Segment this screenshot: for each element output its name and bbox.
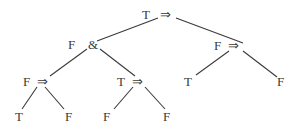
tree-node-leaf_rr: F bbox=[277, 74, 284, 89]
truth-value-label: F bbox=[277, 74, 284, 89]
edge-n_right-leaf_rr bbox=[243, 51, 277, 77]
truth-value-label: F bbox=[103, 109, 110, 124]
evaluation-tree-diagram: T⇒F&F⇒F⇒T⇒TFTFFF bbox=[0, 0, 300, 127]
implies-operator-label: ⇒ bbox=[37, 74, 48, 89]
tree-edges bbox=[22, 18, 277, 109]
edge-n_ll-leaf_1 bbox=[22, 87, 37, 109]
tree-node-leaf_4: F bbox=[163, 109, 170, 124]
and-operator-label: & bbox=[88, 37, 98, 52]
tree-node-leaf_3: F bbox=[103, 109, 110, 124]
edge-n_lr-leaf_4 bbox=[145, 87, 165, 109]
truth-value-label: F bbox=[23, 74, 30, 89]
edge-n_and-n_lr bbox=[100, 49, 135, 76]
tree-node-leaf_rl: T bbox=[184, 74, 192, 89]
tree-node-root: T⇒ bbox=[142, 7, 171, 22]
tree-node-leaf_2: F bbox=[65, 109, 72, 124]
edge-n_and-n_ll bbox=[50, 49, 87, 76]
tree-node-leaf_1: T bbox=[15, 109, 23, 124]
truth-value-label: F bbox=[163, 109, 170, 124]
truth-value-label: F bbox=[68, 37, 75, 52]
truth-value-label: T bbox=[184, 74, 192, 89]
truth-value-label: T bbox=[142, 7, 150, 22]
edge-n_lr-leaf_3 bbox=[114, 87, 133, 109]
truth-value-label: F bbox=[65, 109, 72, 124]
implies-operator-label: ⇒ bbox=[132, 74, 143, 89]
implies-operator-label: ⇒ bbox=[228, 38, 239, 53]
tree-node-n_and: F& bbox=[68, 37, 98, 52]
truth-value-label: T bbox=[15, 109, 23, 124]
tree-svg: T⇒F&F⇒F⇒T⇒TFTFFF bbox=[0, 0, 300, 127]
truth-value-label: T bbox=[117, 74, 125, 89]
edge-n_right-leaf_rl bbox=[196, 51, 229, 75]
edge-n_ll-leaf_2 bbox=[45, 87, 64, 109]
truth-value-label: F bbox=[214, 38, 221, 53]
implies-operator-label: ⇒ bbox=[160, 7, 171, 22]
tree-node-n_lr: T⇒ bbox=[117, 74, 143, 89]
tree-node-n_ll: F⇒ bbox=[23, 74, 48, 89]
tree-node-n_right: F⇒ bbox=[214, 38, 239, 53]
tree-nodes: T⇒F&F⇒F⇒T⇒TFTFFF bbox=[15, 7, 284, 124]
